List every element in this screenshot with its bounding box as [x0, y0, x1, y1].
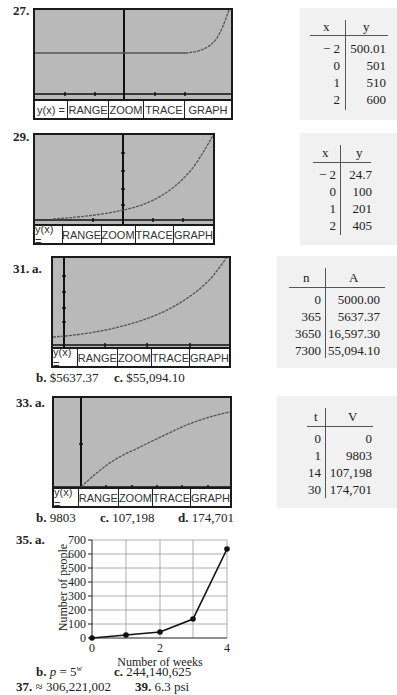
table-cell: 500.01 [348, 41, 386, 57]
calculator-screen-29: y(x) = RANGE ZOOM TRACE GRAPH [33, 133, 215, 245]
y-axis-label: Number of people [56, 538, 71, 638]
answer-label: b. [36, 370, 46, 385]
answer-label: d. [178, 510, 188, 525]
answer-39: 39. 6.3 psi [135, 679, 189, 695]
menu-yx: y(x) = [35, 101, 68, 118]
x-tick: 4 [223, 641, 231, 656]
answer-value: = 5 [56, 664, 76, 679]
menu-trace: TRACE [152, 349, 190, 366]
graph-29 [35, 135, 213, 226]
answer-value: $55,094.10 [126, 370, 185, 385]
answer-label: b. [36, 510, 46, 525]
graph-33 [54, 398, 230, 489]
table-cell: 2 [308, 92, 340, 108]
table-cell: 0 [281, 292, 321, 308]
table-cell: 1 [287, 448, 321, 464]
table-box-33: t V 0 0 1 9803 14 107,198 30 174,701 [277, 396, 397, 508]
menu-trace: TRACE [153, 489, 191, 506]
table-cell: 100 [344, 184, 372, 200]
table-cell: 2 [304, 218, 336, 234]
table-cell: 24.7 [344, 167, 372, 183]
menu-zoom: ZOOM [102, 226, 136, 243]
table-header-x: x [322, 145, 329, 161]
graph-31 [53, 258, 229, 349]
table-cell: 365 [281, 309, 321, 325]
menu-range: RANGE [63, 226, 102, 243]
calculator-menu-31: y(x) = RANGE ZOOM TRACE GRAPH [53, 347, 229, 366]
answer-33d: d. 174,701 [178, 510, 234, 526]
menu-zoom: ZOOM [119, 489, 153, 506]
menu-yx: y(x) = [35, 226, 63, 243]
menu-trace: TRACE [144, 101, 185, 118]
x-tick: 2 [156, 641, 164, 656]
table-box-27: x y − 2 500.01 0 501 1 510 2 600 [300, 8, 397, 120]
calculator-screen-27: y(x) = RANGE ZOOM TRACE GRAPH [33, 8, 233, 120]
problem-number-33: 33. [16, 395, 32, 411]
table-cell: 510 [348, 75, 386, 91]
table-header-a: A [349, 270, 358, 286]
problem-number-37: 37. [16, 679, 32, 694]
table-cell: 3650 [281, 326, 321, 342]
x-tick: 0 [88, 641, 96, 656]
table-cell: − 2 [308, 41, 340, 57]
problem-number-27: 27. [13, 3, 29, 19]
answer-label: b. [36, 664, 46, 679]
table-cell: 201 [344, 201, 372, 217]
table-cell: 1 [308, 75, 340, 91]
menu-zoom: ZOOM [118, 349, 152, 366]
table-cell: 501 [348, 58, 386, 74]
answer-33c: c. 107,198 [100, 510, 155, 526]
calculator-menu-33: y(x) = RANGE ZOOM TRACE GRAPH [54, 487, 230, 506]
table-header-t: t [314, 409, 318, 425]
table-cell: 5637.37 [327, 309, 380, 325]
table-cell: 600 [348, 92, 386, 108]
table-cell: 5000.00 [327, 292, 380, 308]
menu-range: RANGE [68, 101, 109, 118]
menu-graph: GRAPH [190, 349, 229, 366]
answer-label: c. [114, 370, 123, 385]
table-cell: 30 [287, 482, 321, 498]
menu-yx: y(x) = [53, 349, 78, 366]
part-a-label-35: a. [35, 532, 45, 548]
table-cell: 55,094.10 [327, 343, 380, 359]
problem-number-31: 31. [13, 261, 29, 277]
calculator-screen-33: y(x) = RANGE ZOOM TRACE GRAPH [52, 396, 232, 508]
table-cell: 405 [344, 218, 372, 234]
answer-35b: b. p = 5w [36, 664, 82, 680]
calculator-menu-27: y(x) = RANGE ZOOM TRACE GRAPH [35, 99, 231, 118]
answer-value: $5637.37 [50, 370, 99, 385]
table-cell: 1 [304, 201, 336, 217]
part-a-label-33: a. [35, 395, 45, 411]
table-box-31: n A 0 5000.00 365 5637.37 3650 16,597.30… [277, 256, 397, 368]
answer-exponent: w [77, 664, 82, 673]
table-cell: 16,597.30 [327, 326, 380, 342]
table-cell: − 2 [304, 167, 336, 183]
table-header-n: n [303, 270, 310, 286]
problem-number-39: 39. [135, 679, 151, 694]
answer-value: 9803 [50, 510, 76, 525]
menu-range: RANGE [78, 349, 118, 366]
answer-33b: b. 9803 [36, 510, 76, 526]
part-a-label-31: a. [32, 261, 42, 277]
table-header-v: V [348, 409, 357, 425]
table-cell: 174,701 [327, 482, 372, 498]
problem-number-29: 29. [13, 129, 29, 145]
answer-label: c. [114, 664, 123, 679]
answer-label: c. [100, 510, 109, 525]
table-cell: 0 [327, 431, 372, 447]
answer-value: 107,198 [112, 510, 154, 525]
menu-graph: GRAPH [185, 101, 231, 118]
menu-graph: GRAPH [191, 489, 230, 506]
answer-value: ≈ 306,221,002 [36, 679, 111, 694]
problem-number-35: 35. [16, 532, 32, 548]
menu-graph: GRAPH [174, 226, 213, 243]
answer-37: 37. ≈ 306,221,002 [16, 679, 111, 695]
table-header-y: y [356, 145, 363, 161]
table-box-29: x y − 2 24.7 0 100 1 201 2 405 [300, 133, 397, 245]
table-cell: 0 [304, 184, 336, 200]
answer-value: 244,140,625 [126, 664, 191, 679]
table-cell: 0 [287, 431, 321, 447]
menu-trace: TRACE [136, 226, 174, 243]
chart-line [92, 549, 227, 638]
table-cell: 7300 [281, 343, 321, 359]
